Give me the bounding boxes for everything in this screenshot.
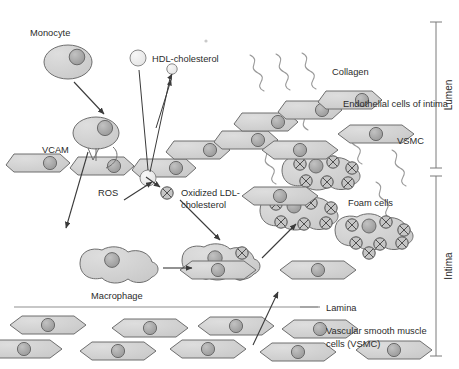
label-lumen: Lumen [443, 80, 454, 111]
vsmc-cell [280, 261, 356, 279]
oxidized-ldl-particle [161, 187, 173, 199]
label-monocyte: Monocyte [30, 28, 70, 38]
label-endothelial-cells: Endothelial cells of intima [343, 99, 449, 109]
endothelial-cell [6, 154, 70, 172]
vsmc-cell [10, 316, 86, 334]
efflux-arrow-head [156, 80, 171, 128]
label-vcam: VCAM [42, 145, 69, 155]
arrow-ros-to-ldl [124, 182, 152, 200]
atherosclerosis-diagram: Monocyte VCAM HDL-cholesterol ROS Oxidiz… [0, 0, 459, 369]
monocyte-adhering [73, 117, 119, 149]
monocyte-free [44, 45, 92, 79]
vsmc-cell [260, 343, 336, 361]
arrow-foamcell-to-plaque [262, 224, 296, 258]
label-macrophage: Macrophage [91, 291, 143, 301]
hdl-particle-speck [204, 39, 207, 42]
vsmc-cell [242, 187, 318, 205]
label-oxidized-ldl-line2: cholesterol [181, 200, 226, 210]
vsmc-cell [180, 261, 256, 279]
arrow-monocyte-adhesion [74, 82, 104, 114]
label-foam-cells: Foam cells [348, 198, 393, 208]
region-brackets [430, 22, 442, 356]
label-vsmc-full-line1: Vascular smooth muscle [326, 326, 427, 336]
macrophage-cell [80, 247, 158, 283]
label-ros: ROS [98, 188, 118, 198]
cholesterol-efflux-lines [139, 70, 172, 172]
label-hdl-cholesterol: HDL-cholesterol [152, 54, 219, 64]
hdl-particle [130, 50, 146, 66]
endothelial-cell [70, 157, 134, 175]
hdl-particle [167, 64, 177, 74]
label-oxidized-ldl-line1: Oxidized LDL- [181, 188, 240, 198]
vsmc-cell [170, 340, 246, 358]
label-vsmc-full-line2: cells (VSMC) [326, 339, 380, 349]
label-lamina: Lamina [326, 303, 357, 313]
vsmc-cell [112, 319, 188, 337]
foam-cell [335, 214, 413, 259]
vsmc-cell [0, 340, 62, 358]
label-vsmc-short: VSMC [397, 136, 424, 146]
vsmc-cell [262, 141, 338, 159]
vsmc-cell [80, 342, 156, 360]
label-collagen: Collagen [332, 67, 369, 77]
diagram-canvas: Monocyte VCAM HDL-cholesterol ROS Oxidiz… [0, 0, 459, 369]
vsmc-cell [198, 317, 274, 335]
label-intima: Intima [443, 252, 454, 280]
